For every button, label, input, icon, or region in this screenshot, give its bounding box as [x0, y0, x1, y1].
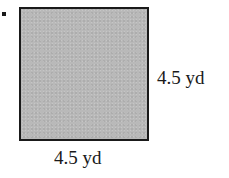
right-side-length-label: 4.5 yd [157, 68, 205, 87]
square-shape [19, 7, 149, 141]
problem-number-marker [2, 12, 6, 16]
bottom-side-length-label: 4.5 yd [54, 148, 102, 167]
